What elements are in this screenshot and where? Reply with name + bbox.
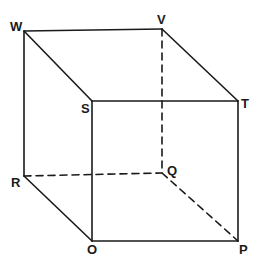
vertex-label-r: R bbox=[11, 176, 20, 189]
geometry-figure: WVTSRQOP bbox=[0, 0, 262, 266]
vertex-label-p: P bbox=[239, 243, 248, 256]
edge-layer bbox=[24, 29, 238, 241]
edge-r-o bbox=[24, 176, 92, 241]
vertex-label-s: S bbox=[81, 102, 90, 115]
edge-r-q bbox=[24, 173, 162, 176]
edge-v-t bbox=[162, 29, 238, 101]
edge-q-p bbox=[162, 173, 238, 241]
vertex-label-q: Q bbox=[167, 164, 177, 177]
vertex-label-v: V bbox=[157, 13, 166, 26]
vertex-label-t: T bbox=[241, 97, 249, 110]
vertex-label-w: W bbox=[10, 20, 22, 33]
vertex-label-o: O bbox=[87, 243, 97, 256]
cuboid-diagram bbox=[0, 0, 262, 266]
edge-w-s bbox=[24, 31, 92, 101]
edge-w-v bbox=[24, 29, 162, 31]
